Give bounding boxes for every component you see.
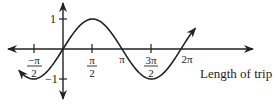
y-tick-label-1: 1: [50, 12, 56, 26]
x-tick-den: 2: [89, 67, 95, 79]
x-tick-num: −π: [28, 54, 40, 66]
x-axis-label: Length of trip: [200, 66, 272, 81]
y-tick-1: 1: [50, 12, 67, 26]
x-tick-2pi: 2π: [181, 53, 193, 65]
sine-diagram: 1 −1 −π 2 π 2 π 3π 2 2π Length of trip: [0, 0, 277, 109]
x-tick-num: π: [89, 54, 95, 66]
x-tick-den: 2: [148, 67, 154, 79]
x-tick-label: π: [119, 53, 125, 65]
x-tick-den: 2: [31, 67, 37, 79]
y-tick-label-neg1: −1: [45, 72, 58, 86]
x-tick-label: 2π: [181, 53, 193, 65]
x-tick-num: 3π: [145, 54, 157, 66]
x-tick-pi: π: [119, 53, 125, 65]
